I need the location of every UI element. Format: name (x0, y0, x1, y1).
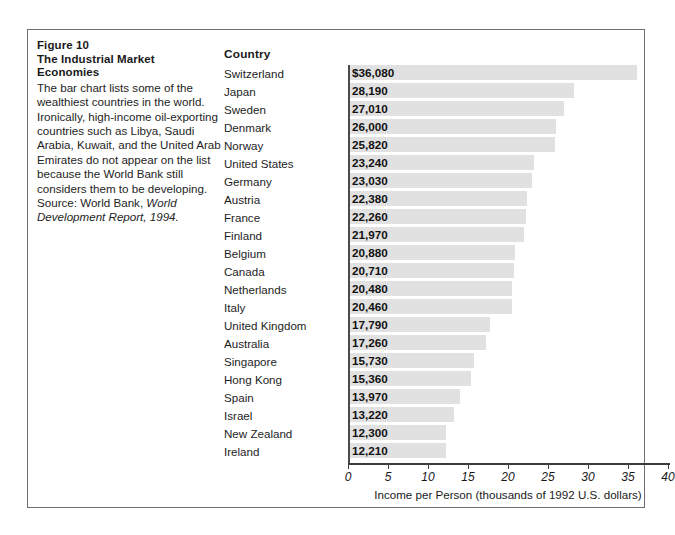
bar-value-label: 20,880 (352, 246, 388, 259)
y-axis-line (348, 65, 350, 463)
caption-body: The bar chart lists some of the wealthie… (37, 81, 223, 225)
bar-row: Japan28,190 (224, 83, 642, 101)
bar-row: Denmark26,000 (224, 119, 642, 137)
country-label: Sweden (224, 103, 266, 116)
bar-row: Singapore15,730 (224, 353, 642, 371)
bar-row: Sweden27,010 (224, 101, 642, 119)
country-label: Switzerland (224, 67, 284, 80)
country-label: Germany (224, 175, 272, 188)
x-axis-tick (668, 463, 669, 469)
bar-row: Netherlands20,480 (224, 281, 642, 299)
bar-value-label: 15,730 (352, 354, 388, 367)
bar-row: Israel13,220 (224, 407, 642, 425)
country-label: New Zealand (224, 427, 292, 440)
x-axis-tick (388, 463, 389, 469)
bar-value-label: 13,970 (352, 390, 388, 403)
bar-row: Norway25,820 (224, 137, 642, 155)
bar-row: Finland21,970 (224, 227, 642, 245)
bar-row: Germany23,030 (224, 173, 642, 191)
x-axis-tick (508, 463, 509, 469)
bar-value-label: 26,000 (352, 120, 388, 133)
bar-value-label: 15,360 (352, 372, 388, 385)
bar-value-label: $36,080 (352, 66, 394, 79)
x-axis-tick-label: 20 (501, 470, 514, 484)
figure-caption: Figure 10 The Industrial Market Economie… (37, 39, 223, 225)
bar-value-label: 22,380 (352, 192, 388, 205)
bar-row: Australia17,260 (224, 335, 642, 353)
country-label: Finland (224, 229, 262, 242)
bar-row: Hong Kong15,360 (224, 371, 642, 389)
bar-value-label: 17,260 (352, 336, 388, 349)
bar-value-label: 27,010 (352, 102, 388, 115)
bar-value-label: 21,970 (352, 228, 388, 241)
x-axis-tick-label: 35 (621, 470, 634, 484)
x-axis-tick-label: 15 (461, 470, 474, 484)
country-label: Australia (224, 337, 269, 350)
chart-area: Country Switzerland$36,080Japan28,190Swe… (224, 38, 640, 503)
country-label: Netherlands (224, 283, 287, 296)
bar-plot: Switzerland$36,080Japan28,190Sweden27,01… (224, 65, 642, 465)
bar-row: Canada20,710 (224, 263, 642, 281)
country-label: Spain (224, 391, 254, 404)
x-axis-title: Income per Person (thousands of 1992 U.S… (348, 488, 668, 501)
caption-text: The bar chart lists some of the wealthie… (37, 81, 221, 209)
country-column-header: Country (224, 47, 271, 61)
country-label: Denmark (224, 121, 271, 134)
x-axis-tick-label: 25 (541, 470, 554, 484)
x-axis-tick-label: 40 (661, 470, 674, 484)
country-label: Austria (224, 193, 260, 206)
bar-value-label: 17,790 (352, 318, 388, 331)
bar-value-label: 28,190 (352, 84, 388, 97)
bar-row: Switzerland$36,080 (224, 65, 642, 83)
country-label: Japan (224, 85, 256, 98)
country-label: Hong Kong (224, 373, 282, 386)
bar-value-label: 20,480 (352, 282, 388, 295)
bar-row: New Zealand12,300 (224, 425, 642, 443)
country-label: Belgium (224, 247, 266, 260)
country-label: Ireland (224, 445, 259, 458)
x-axis-tick (468, 463, 469, 469)
bar-value-label: 22,260 (352, 210, 388, 223)
bar-value-label: 12,300 (352, 426, 388, 439)
bar-value-label: 13,220 (352, 408, 388, 421)
figure-title-line2: Economies (37, 66, 223, 80)
x-axis-tick (588, 463, 589, 469)
figure-frame: Figure 10 The Industrial Market Economie… (27, 29, 645, 508)
bar-value-label: 23,030 (352, 174, 388, 187)
x-axis-tick-label: 5 (385, 470, 392, 484)
country-label: United States (224, 157, 294, 170)
bar-value-label: 12,210 (352, 444, 388, 457)
country-label: Israel (224, 409, 252, 422)
x-axis-tick (428, 463, 429, 469)
x-axis-tick (348, 463, 349, 469)
x-axis-tick (548, 463, 549, 469)
country-label: United Kingdom (224, 319, 307, 332)
figure-title-line1: The Industrial Market (37, 53, 223, 67)
bar-row: United States23,240 (224, 155, 642, 173)
bar-row: France22,260 (224, 209, 642, 227)
bar-value-label: 20,710 (352, 264, 388, 277)
figure-number: Figure 10 (37, 39, 223, 53)
x-axis-tick-label: 10 (421, 470, 434, 484)
bar-value-label: 25,820 (352, 138, 388, 151)
bar-row: United Kingdom17,790 (224, 317, 642, 335)
bar-row: Austria22,380 (224, 191, 642, 209)
country-label: Canada (224, 265, 265, 278)
x-axis-tick (628, 463, 629, 469)
bar-row: Italy20,460 (224, 299, 642, 317)
bar-value-label: 23,240 (352, 156, 388, 169)
x-axis-tick-label: 0 (345, 470, 352, 484)
x-axis-tick-label: 30 (581, 470, 594, 484)
country-label: France (224, 211, 260, 224)
bar-value-label: 20,460 (352, 300, 388, 313)
country-label: Singapore (224, 355, 277, 368)
bar-row: Ireland12,210 (224, 443, 642, 461)
figure-heading: Figure 10 The Industrial Market Economie… (37, 39, 223, 80)
country-label: Norway (224, 139, 263, 152)
bar-row: Belgium20,880 (224, 245, 642, 263)
country-label: Italy (224, 301, 245, 314)
bar-row: Spain13,970 (224, 389, 642, 407)
